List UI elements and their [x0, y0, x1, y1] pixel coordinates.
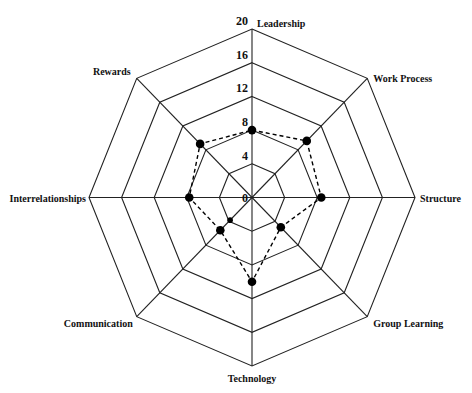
data-point-marker — [248, 277, 257, 286]
axis-label-interrelationships: Interrelationships — [10, 193, 87, 204]
data-point-marker — [317, 193, 326, 202]
data-point-marker — [196, 140, 205, 149]
data-point-marker — [302, 137, 311, 146]
axis-label-work-process: Work Process — [373, 73, 432, 84]
radial-tick-label: 0 — [242, 191, 248, 205]
radial-tick-label: 12 — [236, 81, 248, 95]
extra-data-point-marker — [227, 217, 233, 223]
axis-labels: LeadershipWork ProcessStructureGroup Lea… — [10, 18, 462, 384]
axis-label-group-learning: Group Learning — [373, 318, 443, 329]
radial-tick-label: 20 — [236, 14, 248, 28]
axis-label-technology: Technology — [228, 373, 277, 384]
radial-tick-label: 16 — [236, 48, 248, 62]
axis-label-leadership: Leadership — [257, 18, 306, 29]
axis-label-structure: Structure — [420, 193, 461, 204]
axis-label-rewards: Rewards — [93, 66, 131, 77]
radial-tick-label: 4 — [242, 149, 248, 163]
radar-chart: 048121620 LeadershipWork ProcessStructur… — [0, 0, 472, 393]
radial-tick-label: 8 — [242, 115, 248, 129]
data-point-marker — [185, 193, 194, 202]
data-point-marker — [216, 226, 225, 235]
radial-tick-labels: 048121620 — [236, 14, 248, 205]
data-point-marker — [277, 223, 286, 232]
radar-spokes — [89, 29, 415, 366]
axis-label-communication: Communication — [64, 318, 133, 329]
data-point-marker — [248, 126, 257, 135]
